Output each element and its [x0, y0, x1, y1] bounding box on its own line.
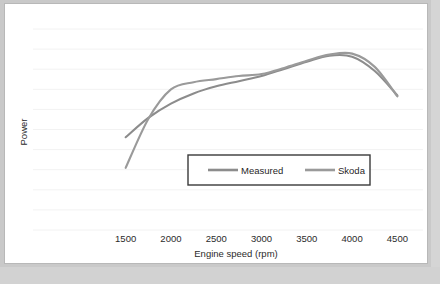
series-line-skoda: [126, 53, 398, 168]
legend-label-measured: Measured: [241, 165, 283, 176]
frame-shadow-bottom: [0, 267, 440, 284]
series-line-measured: [126, 55, 398, 137]
chart-legend[interactable]: Measured Skoda: [188, 155, 370, 185]
power-vs-engine-speed-chart: 1500200025003000350040004500 Engine spee…: [5, 4, 427, 263]
x-tick-label: 3000: [251, 233, 272, 244]
x-tick-label: 1500: [115, 233, 136, 244]
x-tick-label: 2000: [160, 233, 181, 244]
frame-shadow-right: [431, 0, 440, 284]
x-axis-tick-labels: 1500200025003000350040004500: [115, 233, 408, 244]
x-tick-label: 3500: [296, 233, 317, 244]
chart-frame: 1500200025003000350040004500 Engine spee…: [0, 0, 440, 284]
x-tick-label: 4000: [342, 233, 363, 244]
legend-label-skoda: Skoda: [338, 165, 366, 176]
x-axis-title: Engine speed (rpm): [194, 248, 277, 259]
series-group: [126, 53, 398, 168]
y-axis-title: Power: [18, 119, 29, 146]
chart-plot-area: 1500200025003000350040004500 Engine spee…: [5, 4, 427, 263]
x-tick-label: 2500: [206, 233, 227, 244]
x-tick-label: 4500: [387, 233, 408, 244]
